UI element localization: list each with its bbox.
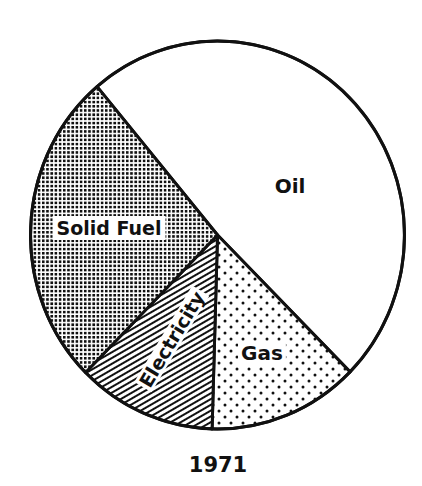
gas-label-group: Gas [238,341,286,365]
oil-label-group: Oil [275,174,306,198]
oil-label: Oil [275,174,306,198]
chart-title: 1971 [189,453,247,477]
gas-label: Gas [241,341,283,365]
solid-fuel-label: Solid Fuel [57,217,162,239]
solid-fuel-label-group: Solid Fuel [53,216,166,240]
pie-chart: Oil Gas Electricity Solid Fuel 1971 [0,0,422,486]
